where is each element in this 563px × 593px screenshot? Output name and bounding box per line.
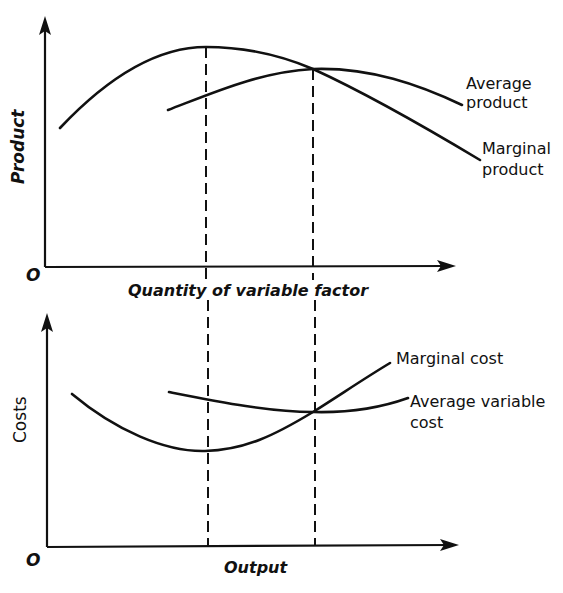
- average-product-curve: [168, 69, 462, 110]
- bottom-origin-label: O: [26, 550, 40, 570]
- marginal-product-label-line1: Marginal: [482, 139, 551, 158]
- top-chart: Product O Quantity of variable factor Av…: [8, 16, 551, 300]
- bottom-x-axis-label: Output: [224, 558, 288, 577]
- top-y-axis-label: Product: [8, 109, 28, 184]
- top-origin-label: O: [26, 265, 40, 285]
- marginal-product-label-line2: product: [482, 160, 544, 179]
- bottom-chart: Costs O Output Marginal cost Average var…: [10, 300, 545, 577]
- top-x-axis: [45, 266, 448, 267]
- bottom-x-axis: [47, 545, 450, 547]
- product-cost-diagram: Product O Quantity of variable factor Av…: [0, 0, 563, 593]
- top-x-axis-label: Quantity of variable factor: [128, 281, 369, 300]
- bottom-y-axis-label: Costs: [10, 396, 30, 443]
- average-product-label-line1: Average: [466, 74, 532, 93]
- marginal-cost-curve: [72, 363, 390, 451]
- marginal-product-curve: [60, 47, 480, 160]
- marginal-cost-label: Marginal cost: [396, 349, 503, 368]
- average-variable-cost-label-line2: cost: [410, 413, 443, 432]
- average-product-label-line2: product: [466, 93, 528, 112]
- average-variable-cost-label-line1: Average variable: [410, 392, 545, 411]
- average-variable-cost-curve: [169, 392, 408, 412]
